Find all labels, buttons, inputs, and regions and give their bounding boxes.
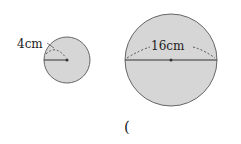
center-point <box>66 59 69 62</box>
large-circle-diameter-label: 16cm <box>151 40 184 52</box>
small-circle-radius-label: 4cm <box>17 38 43 50</box>
answer-bracket: ( <box>124 120 130 135</box>
large-circle <box>125 14 217 106</box>
small-circle <box>44 37 90 83</box>
circles-diagram <box>0 0 241 144</box>
center-point <box>170 59 173 62</box>
